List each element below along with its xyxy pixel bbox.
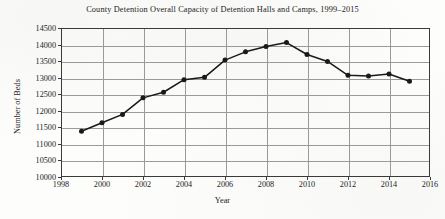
data-point-marker [305, 52, 310, 57]
data-point-marker [407, 79, 412, 84]
data-point-marker [223, 58, 228, 63]
data-point-marker [243, 49, 248, 54]
data-point-marker [366, 74, 371, 79]
data-point-marker [120, 112, 125, 117]
data-point-marker [387, 72, 392, 77]
data-point-marker [161, 90, 166, 95]
series-marker-group [79, 40, 412, 134]
data-point-marker [284, 40, 289, 45]
data-point-marker [264, 44, 269, 49]
data-point-marker [325, 59, 330, 64]
chart-figure: County Detention Overall Capacity of Det… [0, 0, 445, 219]
data-point-marker [100, 120, 105, 125]
data-point-marker [141, 95, 146, 100]
data-series-layer [0, 0, 445, 219]
data-point-marker [202, 75, 207, 80]
data-point-marker [346, 73, 351, 78]
series-line-number-of-beds [82, 43, 410, 132]
data-point-marker [79, 129, 84, 134]
data-point-marker [182, 77, 187, 82]
